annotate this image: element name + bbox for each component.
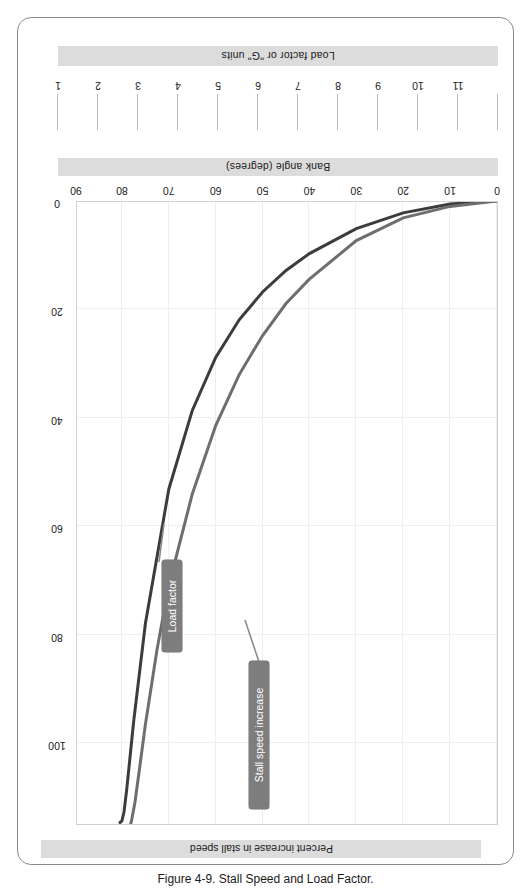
- figure-frame: 11 10 9 8 7 6 5 4 3 2 1 Load factor or "…: [17, 17, 514, 865]
- load-factor-tick-labels: 11 10 9 8 7 6 5 4 3 2 1: [58, 74, 498, 94]
- percent-increase-tick-label: 0: [42, 198, 72, 210]
- load-factor-tick-label: 3: [126, 80, 150, 92]
- percent-increase-tick-label: 100: [42, 740, 72, 752]
- bank-angle-tick-label: 60: [204, 185, 228, 197]
- load-factor-tick-label: 1: [46, 80, 70, 92]
- load-factor-tick-label: 10: [406, 80, 430, 92]
- callout-load-factor-label: Load factor: [166, 580, 178, 633]
- bank-angle-tick-label: 0: [485, 185, 509, 197]
- tick-3: [137, 94, 138, 130]
- tick-4: [177, 94, 178, 130]
- tick-9: [377, 94, 378, 130]
- bank-angle-tick-label: 40: [297, 185, 321, 197]
- callout-load-factor[interactable]: Load factor: [162, 560, 182, 652]
- tick-12: [497, 94, 498, 130]
- load-factor-tick-label: 6: [246, 80, 270, 92]
- bank-angle-axis-title: Bank angle (degrees): [226, 161, 330, 173]
- load-factor-tick-label: 9: [366, 80, 390, 92]
- tick-5: [217, 94, 218, 130]
- percent-increase-tick-label: 20: [42, 306, 72, 318]
- bank-angle-tick-label: 50: [251, 185, 275, 197]
- load-factor-axis-title: Load factor or "G" units: [221, 50, 334, 62]
- bank-angle-tick-label: 90: [64, 185, 88, 197]
- tick-1: [57, 94, 58, 130]
- load-factor-axis-title-band: Load factor or "G" units: [58, 46, 498, 66]
- tick-2: [97, 94, 98, 130]
- load-factor-tick-label: 2: [86, 80, 110, 92]
- percent-increase-tick-label: 80: [42, 632, 72, 644]
- bank-angle-axis-title-band: Bank angle (degrees): [58, 158, 498, 176]
- stall-speed-increase-curve: [130, 201, 497, 824]
- bank-angle-tick-label: 70: [157, 185, 181, 197]
- tick-10: [417, 94, 418, 130]
- curve-canvas: [76, 201, 497, 824]
- load-factor-scale: [58, 94, 498, 130]
- tick-6: [257, 94, 258, 130]
- callout-stall-speed-increase-label: Stall speed increase: [253, 688, 265, 783]
- rotated-chart-stage: 11 10 9 8 7 6 5 4 3 2 1 Load factor or "…: [18, 18, 515, 866]
- bank-angle-tick-label: 80: [110, 185, 134, 197]
- bank-angle-tick-label: 20: [391, 185, 415, 197]
- percent-increase-axis-title: Percent increase in stall speed: [190, 843, 333, 855]
- tick-11: [457, 94, 458, 130]
- load-factor-tick-label: 5: [206, 80, 230, 92]
- load-factor-tick-label: 11: [446, 80, 470, 92]
- figure-caption: Figure 4-9. Stall Speed and Load Factor.: [0, 872, 531, 886]
- tick-7: [297, 94, 298, 130]
- bank-angle-tick-labels: 0 10 20 30 40 50 60 70 80 90: [76, 178, 498, 200]
- percent-increase-tick-labels: 100 80 60 40 20 0: [42, 201, 72, 825]
- percent-increase-axis-title-band-visual: Percent increase in stall speed: [41, 840, 481, 858]
- load-factor-curve: [120, 201, 497, 823]
- load-factor-tick-label: 4: [166, 80, 190, 92]
- load-factor-tick-label: 7: [286, 80, 310, 92]
- bank-angle-tick-label: 10: [438, 185, 462, 197]
- callout-stall-speed-increase[interactable]: Stall speed increase: [249, 661, 269, 809]
- percent-increase-tick-label: 60: [42, 523, 72, 535]
- percent-increase-tick-label: 40: [42, 415, 72, 427]
- tick-8: [337, 94, 338, 130]
- load-factor-tick-label: 8: [326, 80, 350, 92]
- bank-angle-tick-label: 30: [344, 185, 368, 197]
- plot-area: Load factor Stall speed increase: [76, 201, 498, 825]
- stall-speed-leader-line: [245, 620, 259, 662]
